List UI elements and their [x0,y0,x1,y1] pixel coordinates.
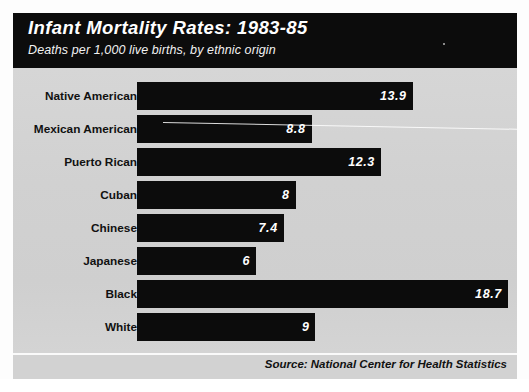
bar-category-label: Chinese [13,214,137,242]
bar-row: Mexican American8.8 [13,115,517,143]
chart-title: Infant Mortality Rates: 1983-85 [28,17,308,39]
chart-figure: Infant Mortality Rates: 1983-85 Deaths p… [0,0,529,392]
bar-category-label: Puerto Rican [13,148,137,176]
panel-background-texture [13,68,517,353]
bar-track: 18.7 [137,280,517,308]
bar-value-label: 7.4 [240,214,278,242]
bar-track: 7.4 [137,214,517,242]
bar-value-label: 6 [212,247,250,275]
bar-category-label: Black [13,280,137,308]
bar-category-label: White [13,313,137,341]
bar-row: Puerto Rican12.3 [13,148,517,176]
bar-value-label: 12.3 [337,148,375,176]
bar-row: Cuban8 [13,181,517,209]
bar-row: Native American13.9 [13,82,517,110]
bar-track: 9 [137,313,517,341]
bar-track: 13.9 [137,82,517,110]
bar-row: White9 [13,313,517,341]
bar-category-label: Cuban [13,181,137,209]
bar-category-label: Mexican American [13,115,137,143]
bar-track: 8 [137,181,517,209]
bar-row: Black18.7 [13,280,517,308]
bar-track: 8.8 [137,115,517,143]
chart-subtitle: Deaths per 1,000 live births, by ethnic … [28,43,276,57]
bar-value-label: 8.8 [268,115,306,143]
bar-value-label: 18.7 [464,280,502,308]
bar-category-label: Native American [13,82,137,110]
bar-row: Japanese6 [13,247,517,275]
bar-track: 6 [137,247,517,275]
bar-value-label: 9 [271,313,309,341]
chart-header-band: Infant Mortality Rates: 1983-85 Deaths p… [13,13,517,68]
bar-fill [137,280,508,308]
bottom-margin [0,379,529,392]
header-speck-artifact [443,43,445,45]
bar-category-label: Japanese [13,247,137,275]
chart-footer-band: Source: National Center for Health Stati… [13,355,517,379]
bar-row: Chinese7.4 [13,214,517,242]
bar-track: 12.3 [137,148,517,176]
bar-value-label: 13.9 [369,82,407,110]
source-attribution: Source: National Center for Health Stati… [265,358,507,370]
bar-value-label: 8 [252,181,290,209]
chart-plot-area: Native American13.9Mexican American8.8Pu… [13,68,517,353]
